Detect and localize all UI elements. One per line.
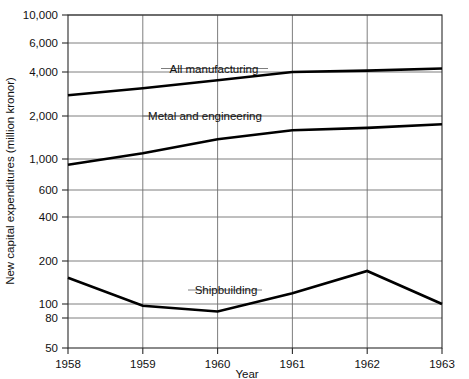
series-label-shipbuilding-group: Shipbuilding [188,284,262,296]
xtick-label-1959: 1959 [130,358,156,370]
xtick-label-1963: 1963 [429,358,455,370]
ytick-label-100: 100 [39,298,58,310]
x-axis-ticks [68,348,442,354]
y-axis-ticks [62,15,68,348]
ytick-label-50: 50 [45,342,58,354]
ytick-label-2000: 2,000 [29,110,58,122]
ytick-label-600: 600 [39,184,58,196]
series-label-all-manufacturing: All manufacturing [170,63,259,75]
y-axis-tick-labels: 10,000 6,000 4,000 2,000 1,000 600 400 2… [23,9,58,354]
gridlines-horizontal [68,15,442,318]
xtick-label-1960: 1960 [205,358,231,370]
ytick-label-4000: 4,000 [29,66,58,78]
ytick-label-10000: 10,000 [23,9,58,21]
x-axis-title: Year [235,368,258,379]
ytick-label-6000: 6,000 [29,37,58,49]
series-label-shipbuilding: Shipbuilding [195,284,258,296]
xtick-label-1962: 1962 [354,358,380,370]
series-label-all-manufacturing-group: All manufacturing [161,63,268,75]
ytick-label-200: 200 [39,255,58,267]
series-label-metal-and-engineering-group: Metal and engineering [142,110,262,122]
y-axis-title: New capital expenditures (million kronor… [4,77,16,285]
ytick-label-80: 80 [45,312,58,324]
ytick-label-400: 400 [39,211,58,223]
ytick-label-1000: 1,000 [29,153,58,165]
series-label-metal-and-engineering: Metal and engineering [148,110,262,122]
chart-container: 10,000 6,000 4,000 2,000 1,000 600 400 2… [0,0,469,379]
xtick-label-1961: 1961 [280,358,306,370]
line-chart-figure: 10,000 6,000 4,000 2,000 1,000 600 400 2… [0,0,469,379]
xtick-label-1958: 1958 [55,358,81,370]
